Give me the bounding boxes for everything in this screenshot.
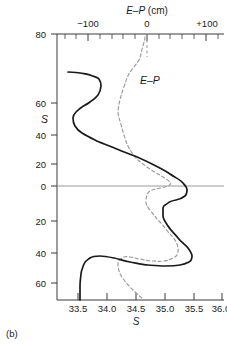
bottom-tick-label-35-5: 35.5 — [185, 303, 204, 314]
bottom-axis-ticks — [78, 293, 222, 300]
left-tick-label-20-upper: 20 — [35, 159, 46, 170]
left-tick-label-60-lower: 60 — [35, 278, 46, 289]
bottom-axis-title: S — [133, 316, 140, 327]
top-tick-label-plus100: +100 — [196, 18, 217, 29]
left-tick-label-20-lower: 20 — [35, 216, 46, 227]
chart-svg: E–P (cm) −100 0 +100 33.5 34.0 34.5 35.0… — [0, 0, 227, 344]
bottom-tick-label-33-5: 33.5 — [69, 303, 88, 314]
left-tick-label-0: 0 — [41, 181, 46, 192]
bottom-tick-label-35-0: 35.0 — [156, 303, 175, 314]
top-axis-title: E–P (cm) — [126, 5, 168, 16]
panel-label: (b) — [6, 328, 18, 339]
s-curve-label: S — [41, 113, 48, 125]
bottom-tick-label-36-0: 36.0 — [212, 303, 227, 314]
ep-curve-label: E–P — [140, 74, 160, 86]
bottom-tick-label-34-5: 34.5 — [127, 303, 146, 314]
left-tick-label-60-upper: 60 — [35, 98, 46, 109]
top-tick-label-zero: 0 — [144, 18, 149, 29]
bottom-tick-label-34-0: 34.0 — [98, 303, 117, 314]
left-tick-label-40-lower: 40 — [35, 248, 46, 259]
left-tick-label-80: 80 — [35, 29, 46, 40]
figure-panel-b: E–P (cm) −100 0 +100 33.5 34.0 34.5 35.0… — [0, 0, 227, 344]
left-axis-ticks — [51, 34, 57, 283]
top-tick-label-minus100: −100 — [77, 18, 98, 29]
left-tick-label-40-upper: 40 — [35, 130, 46, 141]
top-axis-ticks — [65, 34, 218, 41]
axis-labels: E–P (cm) −100 0 +100 33.5 34.0 34.5 35.0… — [35, 5, 227, 327]
